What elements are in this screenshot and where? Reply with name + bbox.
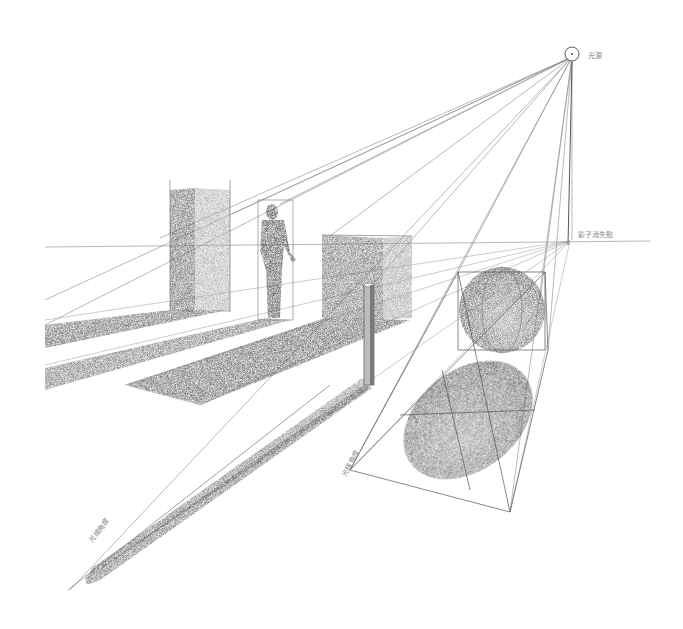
standing-man [260, 204, 296, 318]
shadow-vanishing-point-label: 影子消失點 [578, 229, 613, 239]
sphere-shadow [380, 336, 555, 503]
thin-pole [364, 283, 374, 385]
light-vertical [568, 62, 572, 245]
sphere [459, 267, 545, 353]
perspective-shadow-sketch [0, 0, 683, 629]
light-angle-line-left [68, 385, 330, 590]
light-source-label: 光源 [588, 50, 602, 60]
tall-box [170, 180, 230, 312]
